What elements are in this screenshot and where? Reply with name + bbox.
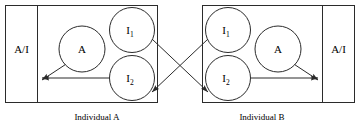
- left-channel-label: A/I: [14, 43, 29, 55]
- left-panel-caption: Individual A: [74, 112, 120, 121]
- right-node-i1-subscript: 1: [226, 29, 230, 38]
- left-node-i1-subscript: 1: [130, 29, 134, 38]
- right-node-a-label: A: [274, 43, 282, 55]
- figure-diagram: A/I A I1 I2 A/I A I1 I2 Individual A Ind…: [0, 0, 361, 121]
- right-node-i2-subscript: 2: [226, 77, 230, 86]
- left-node-a-label: A: [78, 43, 86, 55]
- diagram-canvas: A/I A I1 I2 A/I A I1 I2 Individual A Ind…: [0, 0, 361, 121]
- right-panel-caption: Individual B: [239, 112, 284, 121]
- right-channel-label: A/I: [331, 43, 346, 55]
- left-node-i2-subscript: 2: [130, 77, 134, 86]
